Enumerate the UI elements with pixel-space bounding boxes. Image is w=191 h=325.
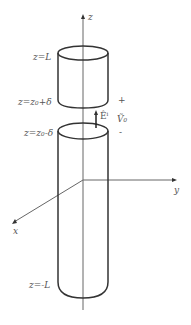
label-field: Êⁱ (100, 110, 109, 121)
y-axis-label: y (173, 185, 180, 195)
z-axis-arrow-icon (81, 14, 85, 19)
label-minus: - (119, 127, 122, 137)
y-axis-arrow-icon (172, 178, 177, 182)
z-axis (81, 14, 85, 310)
x-axis-label: x (13, 226, 18, 236)
x-axis-arrow-icon (12, 219, 17, 224)
label-z-gap-top: z=z₀+δ (17, 97, 52, 107)
label-z-minus-L: z=-L (28, 280, 50, 290)
label-voltage: Ṽ₀ (117, 113, 127, 124)
z-axis-label: z (87, 12, 93, 22)
field-arrow (94, 110, 98, 128)
y-axis (83, 178, 177, 182)
antenna-diagram: z y x z=L z=z₀+δ z=z₀-δ z=-L Êⁱ + Ṽ₀ - (0, 0, 191, 325)
label-plus: + (118, 95, 126, 105)
field-arrow-icon (94, 110, 98, 115)
label-z-L: z=L (32, 52, 51, 62)
x-axis (12, 180, 83, 224)
label-z-gap-bottom: z=z₀-δ (23, 128, 53, 138)
